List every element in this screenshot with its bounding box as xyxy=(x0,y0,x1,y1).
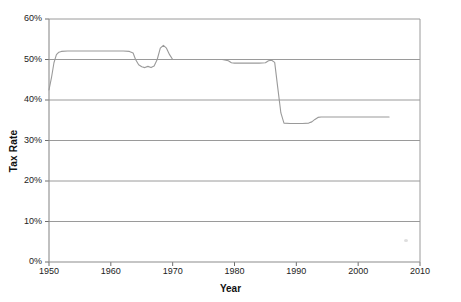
x-tick-label: 1980 xyxy=(215,267,255,276)
x-tick-label: 1950 xyxy=(29,267,69,276)
y-tick-label: 40% xyxy=(8,95,42,104)
y-tick-label: 0% xyxy=(8,257,42,266)
axis-ticks-group xyxy=(45,19,420,266)
y-tick-label: 60% xyxy=(8,14,42,23)
y-tick-label: 30% xyxy=(8,136,42,145)
x-tick-label: 2000 xyxy=(338,267,378,276)
gridlines-group xyxy=(49,19,420,222)
y-tick-label: 20% xyxy=(8,176,42,185)
x-tick-label: 1960 xyxy=(91,267,131,276)
y-tick-label: 50% xyxy=(8,55,42,64)
data-line-tax-rate xyxy=(49,45,389,123)
x-tick-label: 2010 xyxy=(400,267,440,276)
x-tick-label: 1970 xyxy=(153,267,193,276)
y-tick-label: 10% xyxy=(8,217,42,226)
tax-rate-line-chart: Tax Rate Year 0%10%20%30%40%50%60% 19501… xyxy=(0,0,461,302)
chart-canvas xyxy=(0,0,461,302)
x-tick-label: 1990 xyxy=(276,267,316,276)
